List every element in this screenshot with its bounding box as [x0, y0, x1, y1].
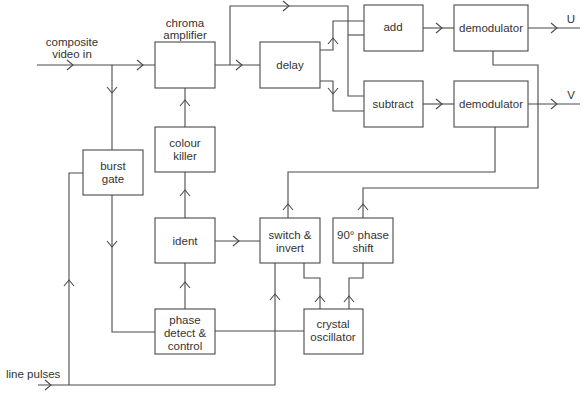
output-u-label: U — [567, 13, 575, 25]
block-chroma-amplifier — [155, 42, 215, 88]
line-pulses-label: line pulses — [6, 368, 61, 380]
block-subtract: subtract — [364, 81, 423, 127]
block-crystal-oscillator: crystal oscillator — [304, 309, 363, 354]
wire-phase-shift-to-demod-u — [363, 51, 538, 218]
phase-detect-label-1: phase — [169, 314, 200, 326]
block-phase-detect-control: phase detect & control — [155, 309, 215, 354]
delay-label: delay — [276, 59, 304, 71]
block-demodulator-v: demodulator — [454, 81, 528, 127]
colour-killer-label-2: killer — [173, 150, 197, 162]
block-colour-killer: colour killer — [155, 127, 215, 172]
wire-osc-to-phase-shift — [349, 263, 363, 309]
add-label: add — [383, 21, 402, 33]
phase-shift-label-2: shift — [352, 242, 374, 254]
demodulator-u-label: demodulator — [459, 22, 523, 34]
wire-switch-to-demod-v — [288, 127, 495, 218]
colour-killer-label-1: colour — [169, 137, 200, 149]
block-add: add — [364, 5, 423, 51]
subtract-label: subtract — [373, 98, 415, 110]
ident-label: ident — [173, 235, 199, 247]
output-v-label: V — [567, 89, 575, 101]
block-ident: ident — [155, 218, 215, 263]
phase-detect-label-3: control — [168, 340, 203, 352]
burst-gate-label-2: gate — [102, 173, 124, 185]
switch-invert-label-2: invert — [276, 242, 305, 254]
block-diagram: delay add subtract demodulator demodulat… — [0, 0, 586, 397]
phase-detect-label-2: detect & — [164, 327, 207, 339]
composite-input-label-1: composite — [46, 36, 98, 48]
block-delay: delay — [260, 42, 320, 88]
block-switch-invert: switch & invert — [260, 218, 320, 263]
block-burst-gate: burst gate — [83, 150, 143, 195]
block-demodulator-u: demodulator — [454, 5, 528, 51]
wire-osc-to-switch — [304, 263, 320, 309]
chroma-amplifier-label-2: amplifier — [163, 29, 207, 41]
wire-burst-to-detect — [112, 195, 155, 332]
chroma-amplifier-label-1: chroma — [166, 17, 205, 29]
block-90-phase-shift: 90° phase shift — [333, 218, 393, 263]
phase-shift-label-1: 90° phase — [337, 229, 389, 241]
crystal-oscillator-label-2: oscillator — [310, 331, 356, 343]
wire-line-pulses-to-burst — [69, 173, 83, 385]
composite-input-label-2: video in — [52, 48, 92, 60]
demodulator-v-label: demodulator — [459, 98, 523, 110]
crystal-oscillator-label-1: crystal — [316, 318, 349, 330]
burst-gate-label-1: burst — [100, 160, 126, 172]
switch-invert-label-1: switch & — [269, 229, 312, 241]
